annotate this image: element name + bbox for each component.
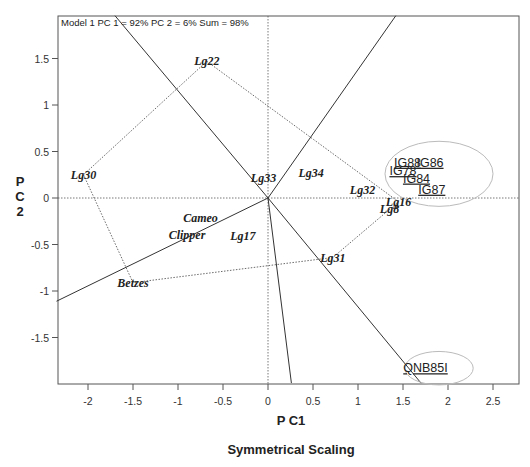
x-tick-label: -2: [83, 395, 92, 407]
y-tick-label: 1.5: [34, 53, 49, 65]
y-tick-label: 0.5: [34, 146, 49, 158]
environment-label: IG86: [416, 156, 443, 170]
zero-reference-lines: [58, 16, 519, 384]
genotype-label: Lg22: [193, 54, 219, 68]
x-tick-label: 0: [265, 395, 271, 407]
svg-text:C: C: [15, 189, 25, 204]
y-tick-label: -1: [40, 285, 49, 297]
environment-label: IG87: [418, 183, 445, 197]
x-tick-label: -0.5: [214, 395, 232, 407]
genotype-label: Lg17: [229, 229, 256, 243]
y-tick-label: -1.5: [31, 332, 49, 344]
genotype-label: Betzes: [116, 276, 149, 290]
genotype-label: Lg30: [70, 168, 96, 182]
environment-labels: IG88IG86IG78IG84IG87QNB85I: [389, 156, 447, 376]
sector-rays: [57, 16, 422, 383]
y-tick-label: 1: [43, 99, 49, 111]
genotype-label: Clipper: [169, 228, 206, 242]
model-caption: Model 1 PC 1 = 92% PC 2 = 6% Sum = 98%: [61, 17, 249, 28]
genotype-label: Lg8: [379, 202, 399, 216]
genotype-label: Lg33: [250, 171, 276, 185]
x-tick-label: 0.5: [306, 395, 321, 407]
x-tick-label: -1.5: [124, 395, 142, 407]
genotype-labels: Lg22Lg30Lg33Lg34Lg32Lg16Lg8CameoClipperL…: [70, 54, 411, 289]
genotype-label: Lg32: [349, 183, 375, 197]
x-tick-label: 1: [355, 395, 361, 407]
y-tick-label: 0: [43, 192, 49, 204]
axis-ticks: -2-1.5-1-0.500.511.522.51.510.50-0.5-1-1…: [31, 53, 501, 408]
plot-frame: [58, 16, 519, 384]
genotype-label: Lg31: [319, 251, 345, 265]
svg-text:P: P: [16, 174, 25, 189]
y-tick-label: -0.5: [31, 239, 49, 251]
convex-hull-polygon: [84, 61, 399, 282]
gge-biplot: -2-1.5-1-0.500.511.522.51.510.50-0.5-1-1…: [0, 0, 530, 467]
y-axis-title: P C 2: [15, 174, 25, 219]
genotype-label: Lg34: [298, 166, 324, 180]
genotype-label: Cameo: [183, 211, 218, 225]
x-tick-label: 1.5: [396, 395, 411, 407]
x-tick-label: 2: [445, 395, 451, 407]
x-axis-title: P C1: [277, 413, 306, 428]
x-tick-label: 2.5: [486, 395, 501, 407]
x-tick-label: -1: [173, 395, 182, 407]
environment-label: QNB85I: [403, 361, 447, 375]
chart-subtitle: Symmetrical Scaling: [227, 442, 354, 457]
svg-text:2: 2: [16, 204, 23, 219]
